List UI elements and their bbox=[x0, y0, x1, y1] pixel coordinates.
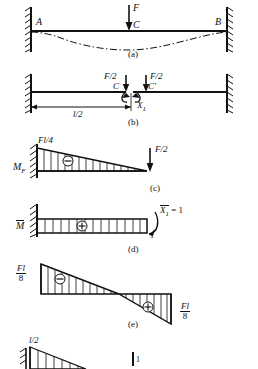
sign-marker-negative-e bbox=[55, 274, 65, 284]
left-fixed-support-d bbox=[30, 204, 37, 237]
label-f2-left: F/2 bbox=[104, 72, 117, 81]
label-redundant-x1: X1 bbox=[137, 101, 146, 113]
panel-c: Fl/4 MF F/2 (c) bbox=[0, 136, 258, 196]
next-triangle-diagram bbox=[30, 347, 86, 369]
load-arrow-f bbox=[126, 5, 133, 31]
label-diagram-mbar: M bbox=[16, 220, 24, 231]
panel-c-graphic bbox=[0, 136, 258, 196]
load-arrow-f2-left bbox=[123, 75, 129, 92]
deflected-shape-a bbox=[31, 32, 227, 50]
sign-marker-positive-e bbox=[143, 302, 153, 312]
sign-marker-positive-d bbox=[77, 221, 87, 231]
left-fixed-support-b bbox=[25, 74, 31, 113]
label-tip-load-f2: F/2 bbox=[155, 145, 168, 154]
left-fixed-support-c bbox=[30, 144, 37, 178]
caption-d: (d) bbox=[128, 245, 139, 254]
label-midpoint-c: C bbox=[133, 20, 140, 30]
caption-e: (e) bbox=[128, 320, 138, 329]
label-next-span: l/2 bbox=[29, 336, 39, 345]
label-unit-ordinate-d: 1 bbox=[150, 232, 154, 240]
label-dimension-half-span: l/2 bbox=[73, 110, 83, 119]
panel-d: M X1 = 1 1 (d) bbox=[0, 198, 258, 256]
sign-marker-negative-c bbox=[63, 156, 73, 166]
caption-c: (c) bbox=[150, 184, 160, 193]
label-f2-right: F/2 bbox=[150, 72, 163, 81]
label-cut-c: C bbox=[113, 82, 119, 91]
final-moment-left-negative bbox=[41, 264, 119, 294]
label-final-moment-left: Fl 8 bbox=[16, 264, 26, 283]
label-load-f: F bbox=[133, 3, 139, 13]
panel-e: Fl 8 Fl 8 (e) bbox=[0, 258, 258, 330]
label-final-moment-right: Fl 8 bbox=[180, 302, 190, 321]
panel-b: F/2 F/2 C C' X1 l/2 (b) bbox=[0, 66, 258, 130]
label-next-unit: 1 bbox=[136, 356, 140, 364]
label-peak-fl4: Fl/4 bbox=[38, 136, 53, 145]
tip-load-arrow-f2-c bbox=[147, 148, 154, 172]
right-fixed-support-b bbox=[227, 74, 233, 113]
panel-next-partial: l/2 1 bbox=[0, 336, 258, 369]
hatching-d bbox=[45, 219, 140, 233]
left-fixed-support-a bbox=[25, 7, 31, 52]
label-support-b: B bbox=[215, 17, 221, 27]
right-fixed-support-a bbox=[227, 7, 233, 52]
label-diagram-mf: MF bbox=[13, 162, 26, 175]
moment-diagram-mf bbox=[37, 148, 147, 171]
label-support-a: A bbox=[36, 17, 42, 27]
unit-moment-diagram-mbar bbox=[37, 219, 147, 233]
caption-a: (a) bbox=[128, 50, 138, 59]
panel-a: A B F C (a) bbox=[0, 0, 258, 60]
left-fixed-support-next bbox=[20, 348, 26, 369]
label-cut-c-prime: C' bbox=[148, 82, 156, 91]
caption-b: (b) bbox=[128, 118, 139, 127]
label-unit-redundant: X1 = 1 bbox=[160, 205, 183, 218]
